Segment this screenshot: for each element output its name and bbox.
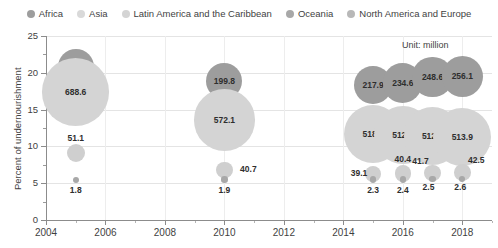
x-axis-tick-label: 2004 [26, 228, 66, 238]
x-axis-tick-label: 2016 [383, 228, 423, 238]
gridline-vertical [284, 36, 285, 220]
bubble-chart: AfricaAsiaLatin America and the Caribbea… [0, 0, 498, 248]
bubble-value-label: 51.1 [56, 134, 96, 143]
x-axis-tick-label: 2010 [204, 228, 244, 238]
x-axis-tick-label: 2014 [323, 228, 363, 238]
x-axis-tick-label: 2012 [264, 228, 304, 238]
legend-swatch-icon [286, 10, 294, 18]
y-tick-minor [43, 202, 46, 203]
y-tick-major [41, 110, 46, 111]
legend-swatch-icon [27, 10, 35, 18]
x-tick-major [403, 221, 404, 225]
bubble-value-label: 688.6 [56, 88, 96, 97]
legend-item-asia[interactable]: Asia [77, 9, 107, 19]
y-axis-tick-label: 20 [14, 68, 38, 78]
gridline-vertical [165, 36, 166, 220]
unit-annotation: Unit: million [402, 41, 449, 50]
bubble-value-label: 41.7 [401, 157, 441, 166]
x-tick-major [46, 221, 47, 225]
y-axis-tick-label: 25 [14, 31, 38, 41]
x-tick-minor [433, 221, 434, 223]
legend-item-label: Asia [89, 9, 107, 19]
x-tick-minor [373, 221, 374, 223]
y-tick-major [41, 73, 46, 74]
legend-item-north-america-and-europe[interactable]: North America and Europe [347, 9, 471, 19]
x-tick-major [343, 221, 344, 225]
x-tick-major [105, 221, 106, 225]
x-axis-tick-label: 2006 [85, 228, 125, 238]
y-tick-major [41, 36, 46, 37]
chart-legend: AfricaAsiaLatin America and the Caribbea… [0, 6, 498, 22]
bubble-value-label: 256.1 [442, 72, 482, 81]
y-tick-minor [43, 165, 46, 166]
y-tick-major [41, 146, 46, 147]
gridline-horizontal [46, 36, 492, 37]
x-axis-tick-label: 2008 [145, 228, 185, 238]
y-axis-tick-label: 0 [14, 215, 38, 225]
bubble-oceania [459, 176, 465, 182]
legend-swatch-icon [77, 10, 85, 18]
x-tick-minor [76, 221, 77, 223]
bubble-value-label: 1.9 [204, 186, 244, 195]
y-tick-major [41, 183, 46, 184]
legend-item-label: Africa [39, 9, 63, 19]
bubble-value-label: 42.5 [456, 156, 496, 165]
bubble-value-label: 1.8 [56, 186, 96, 195]
x-tick-major [224, 221, 225, 225]
plot-area: 196.0199.8217.9234.6248.6256.1688.6572.1… [46, 36, 492, 220]
x-axis-line [46, 220, 492, 221]
x-tick-major [284, 221, 285, 225]
gridline-vertical [105, 36, 106, 220]
bubble-value-label: 513.9 [442, 133, 482, 142]
bubble-value-label: 572.1 [204, 116, 244, 125]
legend-swatch-icon [347, 10, 355, 18]
x-axis-tick-label: 2018 [442, 228, 482, 238]
x-tick-major [462, 221, 463, 225]
x-tick-minor [254, 221, 255, 223]
legend-item-latin-america-and-the-caribbean[interactable]: Latin America and the Caribbean [122, 9, 272, 19]
y-axis-tick-label: 10 [14, 141, 38, 151]
x-tick-major [165, 221, 166, 225]
bubble-oceania [429, 176, 435, 182]
y-axis-title: Percent of undernourishment [12, 67, 23, 190]
bubble-oceania [400, 176, 406, 182]
y-axis-line [46, 36, 47, 221]
x-tick-minor [195, 221, 196, 223]
bubble-value-label: 40.7 [228, 165, 268, 174]
x-tick-minor [492, 221, 493, 223]
bubble-oceania [221, 176, 227, 182]
legend-item-label: Oceania [298, 9, 333, 19]
y-axis-tick-label: 5 [14, 178, 38, 188]
bubble-value-label: 199.8 [204, 77, 244, 86]
bubble-value-label: 2.6 [440, 183, 480, 192]
legend-swatch-icon [122, 10, 130, 18]
legend-item-africa[interactable]: Africa [27, 9, 63, 19]
bubble-oceania [370, 176, 376, 182]
x-tick-minor [314, 221, 315, 223]
legend-item-label: North America and Europe [359, 9, 471, 19]
legend-item-oceania[interactable]: Oceania [286, 9, 333, 19]
x-tick-minor [135, 221, 136, 223]
y-tick-minor [43, 54, 46, 55]
legend-item-label: Latin America and the Caribbean [134, 9, 272, 19]
y-axis-tick-label: 15 [14, 105, 38, 115]
bubble-latin-america-and-the-caribbean [67, 144, 85, 162]
y-tick-minor [43, 128, 46, 129]
